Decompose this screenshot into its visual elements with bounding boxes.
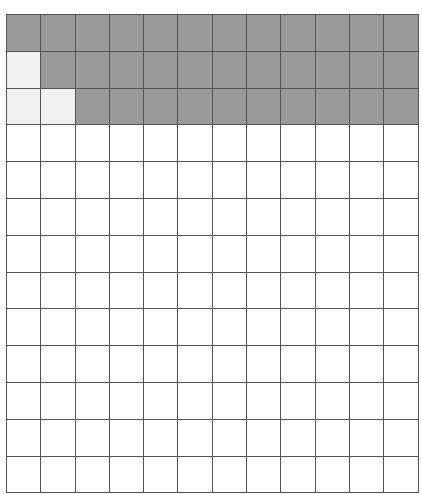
grid-cell-empty (144, 346, 178, 383)
grid-cell-empty (76, 125, 110, 162)
grid-cell-empty (41, 457, 75, 494)
grid-cell-empty (41, 125, 75, 162)
grid-cell-empty (213, 309, 247, 346)
grid-cell-empty (247, 457, 281, 494)
grid-cell-empty (41, 309, 75, 346)
grid-cell-empty (110, 236, 144, 273)
grid-cell-empty (144, 199, 178, 236)
grid-cell-empty (247, 346, 281, 383)
grid-cell-empty (350, 273, 384, 310)
grid-cell-empty (110, 383, 144, 420)
grid-cell-shaded (350, 89, 384, 126)
grid-cell-shaded (350, 15, 384, 52)
grid-cell-empty (384, 125, 418, 162)
grid-cell-empty (350, 199, 384, 236)
grid-cell-empty (384, 273, 418, 310)
grid-cell-shaded (178, 89, 212, 126)
grid-cell-empty (247, 309, 281, 346)
grid-cell-empty (76, 457, 110, 494)
grid-cell-empty (350, 309, 384, 346)
grid-cell-empty (213, 236, 247, 273)
grid-cell-empty (178, 309, 212, 346)
grid-cell-empty (7, 273, 41, 310)
grid-cell-empty (41, 162, 75, 199)
grid-cell-empty (41, 346, 75, 383)
shaded-grid (6, 14, 419, 493)
grid-cell-empty (110, 346, 144, 383)
grid-cell-empty (316, 309, 350, 346)
grid-cell-empty (110, 162, 144, 199)
grid-cell-empty (316, 162, 350, 199)
grid-cell-light (7, 52, 41, 89)
grid-cell-shaded (110, 89, 144, 126)
grid-cell-shaded (247, 89, 281, 126)
grid-cell-empty (76, 236, 110, 273)
grid-cell-empty (316, 236, 350, 273)
grid-cell-empty (178, 162, 212, 199)
grid-cell-empty (247, 273, 281, 310)
grid-cell-empty (213, 199, 247, 236)
grid-cell-empty (350, 420, 384, 457)
grid-cell-empty (110, 273, 144, 310)
grid-cell-shaded (144, 52, 178, 89)
grid-cell-shaded (281, 52, 315, 89)
grid-cell-empty (350, 457, 384, 494)
grid-cell-light (41, 89, 75, 126)
grid-cell-empty (316, 125, 350, 162)
grid-cell-shaded (384, 89, 418, 126)
grid-cell-shaded (350, 52, 384, 89)
grid-cell-empty (41, 273, 75, 310)
grid-cell-empty (213, 420, 247, 457)
grid-cell-empty (281, 273, 315, 310)
grid-cell-shaded (213, 89, 247, 126)
grid-cell-empty (76, 383, 110, 420)
grid-cell-shaded (76, 15, 110, 52)
grid-cell-shaded (178, 15, 212, 52)
grid-cell-empty (247, 420, 281, 457)
grid-cell-shaded (110, 15, 144, 52)
grid-cell-empty (281, 346, 315, 383)
grid-cell-empty (41, 383, 75, 420)
grid-cell-shaded (178, 52, 212, 89)
grid-cell-empty (144, 457, 178, 494)
grid-cell-empty (281, 125, 315, 162)
grid-cell-empty (178, 199, 212, 236)
grid-cell-shaded (384, 52, 418, 89)
grid-cell-empty (7, 457, 41, 494)
grid-cell-shaded (316, 15, 350, 52)
grid-cell-shaded (247, 15, 281, 52)
grid-cell-empty (7, 236, 41, 273)
grid-cell-empty (76, 309, 110, 346)
grid-cell-empty (110, 309, 144, 346)
grid-cell-empty (384, 236, 418, 273)
grid-cell-light (7, 89, 41, 126)
grid-cell-empty (316, 457, 350, 494)
grid-cell-empty (76, 346, 110, 383)
grid-cell-empty (350, 346, 384, 383)
grid-cell-empty (76, 199, 110, 236)
grid-cell-empty (41, 236, 75, 273)
grid-cell-empty (350, 162, 384, 199)
grid-cell-empty (7, 420, 41, 457)
grid-cell-shaded (110, 52, 144, 89)
grid-cell-empty (7, 125, 41, 162)
grid-cell-empty (316, 420, 350, 457)
grid-cell-shaded (281, 89, 315, 126)
grid-cell-empty (178, 236, 212, 273)
grid-cell-shaded (384, 15, 418, 52)
grid-cell-shaded (76, 52, 110, 89)
grid-cell-empty (144, 383, 178, 420)
grid-cell-empty (247, 199, 281, 236)
grid-cell-empty (247, 162, 281, 199)
grid-cell-empty (316, 383, 350, 420)
grid-cell-empty (281, 162, 315, 199)
grid-cell-empty (213, 457, 247, 494)
grid-cell-empty (213, 162, 247, 199)
grid-cell-empty (384, 383, 418, 420)
grid-cell-empty (178, 346, 212, 383)
grid-cell-empty (41, 420, 75, 457)
grid-cell-shaded (316, 52, 350, 89)
grid-cell-shaded (7, 15, 41, 52)
grid-cell-empty (178, 383, 212, 420)
grid-cell-empty (281, 457, 315, 494)
